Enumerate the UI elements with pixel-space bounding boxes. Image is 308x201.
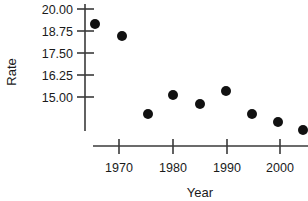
data-point xyxy=(273,117,283,127)
x-tick-label: 1980 xyxy=(159,161,187,175)
data-point xyxy=(90,19,100,29)
data-point xyxy=(117,31,127,41)
x-tick-label: 1970 xyxy=(105,161,133,175)
data-point xyxy=(168,90,178,100)
plot-area: 20.00 18.75 17.50 16.25 15.00 1970 1980 … xyxy=(0,0,308,201)
y-tick-label: 17.50 xyxy=(42,47,73,61)
y-axis-label: Rate xyxy=(4,58,19,85)
data-point xyxy=(298,125,308,135)
y-tick-label: 18.75 xyxy=(42,25,73,39)
data-point xyxy=(221,86,231,96)
data-point xyxy=(195,99,205,109)
data-points xyxy=(90,19,308,135)
y-tick-labels: 20.00 18.75 17.50 16.25 15.00 xyxy=(42,3,73,105)
x-tick-label: 1990 xyxy=(213,161,241,175)
y-tick-label: 16.25 xyxy=(42,69,73,83)
x-axis-label: Year xyxy=(187,185,214,200)
x-tick-label: 2000 xyxy=(266,161,294,175)
data-point xyxy=(247,109,257,119)
y-tick-label: 15.00 xyxy=(42,91,73,105)
y-tick-label: 20.00 xyxy=(42,3,73,17)
data-point xyxy=(143,109,153,119)
x-tick-labels: 1970 1980 1990 2000 xyxy=(105,161,294,175)
scatter-chart-figure: 20.00 18.75 17.50 16.25 15.00 1970 1980 … xyxy=(0,0,308,201)
